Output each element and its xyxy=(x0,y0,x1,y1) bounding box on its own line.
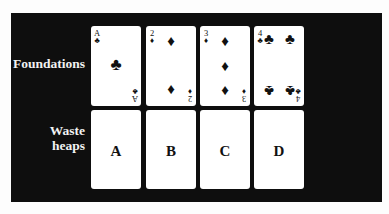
foundation-card-3[interactable]: 3 ♦ ♦ ♦ ♦ 3 ♦ xyxy=(200,26,250,106)
foundations-label-text: Foundations xyxy=(13,56,85,71)
waste-heaps-label: Waste heaps xyxy=(13,123,85,153)
foundation-card-1[interactable]: A ♣ ♣ A ♣ xyxy=(91,26,141,106)
club-icon: ♣ xyxy=(108,57,124,72)
diamond-icon: ♦ xyxy=(186,87,194,95)
diamond-icon: ♦ xyxy=(240,87,248,95)
card-index-bottom: 4 ♣ xyxy=(294,87,302,103)
club-icon: ♣ xyxy=(261,32,277,47)
diamond-icon: ♦ xyxy=(202,37,210,45)
game-table: Foundations Waste heaps A ♣ ♣ A ♣ 2 ♦ ♦ … xyxy=(11,13,382,202)
card-index-bottom: A ♣ xyxy=(131,87,139,103)
club-icon: ♣ xyxy=(261,83,277,98)
diamond-icon: ♦ xyxy=(217,59,233,74)
waste-label-line2: heaps xyxy=(13,138,85,153)
diamond-icon: ♦ xyxy=(163,34,179,49)
club-icon: ♣ xyxy=(93,37,101,45)
club-icon: ♣ xyxy=(294,87,302,95)
club-icon: ♣ xyxy=(282,32,298,47)
card-index-bottom: 3 ♦ xyxy=(240,87,248,103)
diamond-icon: ♦ xyxy=(163,82,179,97)
waste-heap-c[interactable]: C xyxy=(200,110,250,189)
foundation-card-4[interactable]: 4 ♣ ♣ ♣ ♣ ♣ 4 ♣ xyxy=(254,26,304,106)
diamond-icon: ♦ xyxy=(217,34,233,49)
card-index-top: 2 ♦ xyxy=(148,29,156,45)
diamond-icon: ♦ xyxy=(217,83,233,98)
card-index-bottom: 2 ♦ xyxy=(186,87,194,103)
waste-heap-a[interactable]: A xyxy=(91,110,141,189)
card-index-top: A ♣ xyxy=(93,29,101,45)
foundation-card-2[interactable]: 2 ♦ ♦ ♦ 2 ♦ xyxy=(146,26,196,106)
foundations-label: Foundations xyxy=(13,56,85,71)
waste-heap-label: A xyxy=(91,143,141,160)
card-index-top: 3 ♦ xyxy=(202,29,210,45)
diamond-icon: ♦ xyxy=(148,37,156,45)
waste-heap-d[interactable]: D xyxy=(254,110,304,189)
waste-heap-b[interactable]: B xyxy=(146,110,196,189)
waste-heap-label: D xyxy=(254,143,304,160)
waste-label-line1: Waste xyxy=(13,123,85,138)
waste-heap-label: C xyxy=(200,143,250,160)
waste-heap-label: B xyxy=(146,143,196,160)
